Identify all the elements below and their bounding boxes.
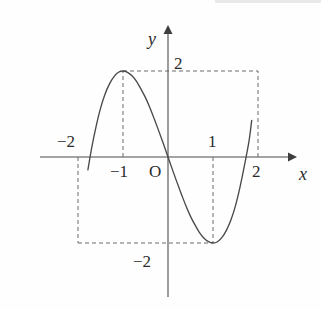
cartesian-plot (0, 0, 321, 310)
y-axis-label: y (148, 30, 156, 48)
y-axis-arrow-icon (164, 25, 173, 34)
x-tick-label-pos1: 1 (208, 133, 217, 150)
x-tick-label-pos2: 2 (252, 163, 261, 180)
x-axis-label: x (299, 165, 307, 183)
x-tick-label-neg2: −2 (57, 133, 75, 150)
y-tick-label-neg2: −2 (133, 253, 151, 270)
graph-figure: y x O −2 −1 1 2 2 −2 (0, 0, 321, 310)
x-tick-label-neg1: −1 (110, 163, 128, 180)
y-tick-label-pos2: 2 (174, 55, 183, 72)
origin-label: O (149, 163, 161, 180)
x-axis-arrow-icon (288, 153, 297, 162)
